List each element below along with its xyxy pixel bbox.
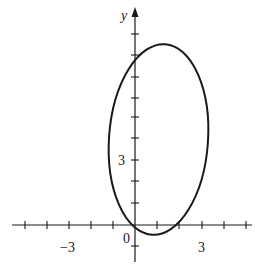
y-axis-arrow-icon (132, 7, 139, 17)
ellipse-curve (102, 41, 214, 238)
x-tick-label-3: 3 (198, 240, 205, 255)
plot: y −3 0 3 3 (0, 0, 255, 266)
y-axis-label: y (119, 8, 128, 23)
y-tick-label-3: 3 (118, 153, 125, 168)
x-tick-label-neg3: −3 (60, 240, 75, 255)
x-tick-label-zero: 0 (123, 231, 130, 246)
